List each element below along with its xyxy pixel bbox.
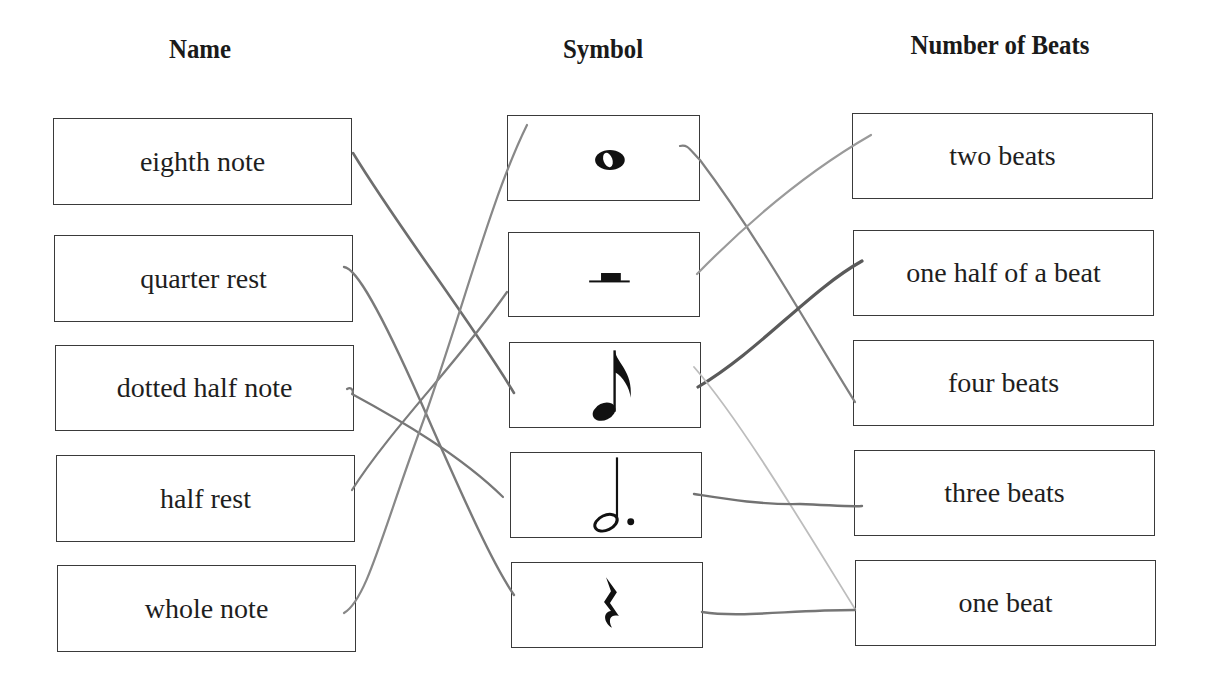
quarter-rest-icon	[512, 562, 702, 648]
match-line-eighth-note	[353, 153, 514, 393]
name-box-whole-note[interactable]: whole note	[57, 565, 356, 652]
symbol-box-half-rest[interactable]	[508, 232, 700, 317]
name-box-dotted-half-note[interactable]: dotted half note	[55, 345, 354, 431]
name-label: half rest	[160, 483, 251, 515]
beats-label: one beat	[958, 587, 1052, 619]
name-label: whole note	[145, 593, 269, 625]
name-box-quarter-rest[interactable]: quarter rest	[54, 235, 353, 322]
half-rest-icon	[509, 232, 699, 317]
match-line-eighth-note-one-beat	[694, 367, 855, 609]
beats-box-two-beats[interactable]: two beats	[852, 113, 1153, 199]
beats-label: one half of a beat	[906, 257, 1100, 289]
match-line-dotted-half-three-beats	[694, 494, 862, 506]
match-line-half-rest	[352, 292, 507, 490]
heading-symbol: Symbol	[543, 34, 663, 65]
symbol-box-dotted-half-note[interactable]	[510, 452, 702, 538]
dotted-half-note-icon	[511, 452, 701, 538]
name-box-half-rest[interactable]: half rest	[56, 455, 355, 542]
symbol-box-quarter-rest[interactable]	[511, 562, 703, 648]
beats-label: three beats	[944, 477, 1065, 509]
name-label: dotted half note	[117, 372, 293, 404]
symbol-box-whole-note[interactable]	[507, 115, 700, 201]
beats-box-one-half-of-a-beat[interactable]: one half of a beat	[853, 230, 1154, 316]
match-line-dotted-half-note	[347, 388, 503, 497]
match-line-eighth-note-half-beat	[698, 261, 862, 387]
beats-box-four-beats[interactable]: four beats	[853, 340, 1154, 426]
symbol-box-eighth-note[interactable]	[509, 342, 701, 428]
name-label: eighth note	[140, 146, 265, 178]
match-line-quarter-rest-one-beat	[702, 610, 855, 614]
heading-number-of-beats: Number of Beats	[880, 30, 1119, 61]
match-line-quarter-rest	[344, 267, 514, 595]
name-box-eighth-note[interactable]: eighth note	[53, 118, 352, 205]
beats-box-three-beats[interactable]: three beats	[854, 450, 1155, 536]
name-label: quarter rest	[140, 263, 267, 295]
match-line-whole-note-four-beats	[680, 146, 855, 402]
match-line-half-rest-two-beats	[697, 135, 871, 274]
heading-name: Name	[154, 34, 246, 65]
eighth-note-icon	[510, 342, 700, 428]
beats-label: two beats	[949, 140, 1056, 172]
beats-box-one-beat[interactable]: one beat	[855, 560, 1156, 646]
whole-note-icon	[508, 115, 699, 201]
beats-label: four beats	[948, 367, 1059, 399]
match-line-whole-note	[344, 125, 527, 613]
